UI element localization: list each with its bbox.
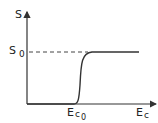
x-axis-label-sub: c [144, 110, 149, 120]
y-axis-label: S [15, 8, 22, 21]
x-axis-label-main: E [136, 106, 143, 119]
s0-label-main: S [9, 44, 16, 57]
step-response-diagram: S S 0 E c 0 E c [0, 0, 158, 123]
ec0-label-sub2: 0 [81, 113, 86, 122]
step-curve [27, 52, 139, 104]
s0-label-sub: 0 [19, 49, 25, 59]
ec0-label-main: E [67, 106, 74, 119]
ec0-label-sub: c [75, 109, 80, 119]
